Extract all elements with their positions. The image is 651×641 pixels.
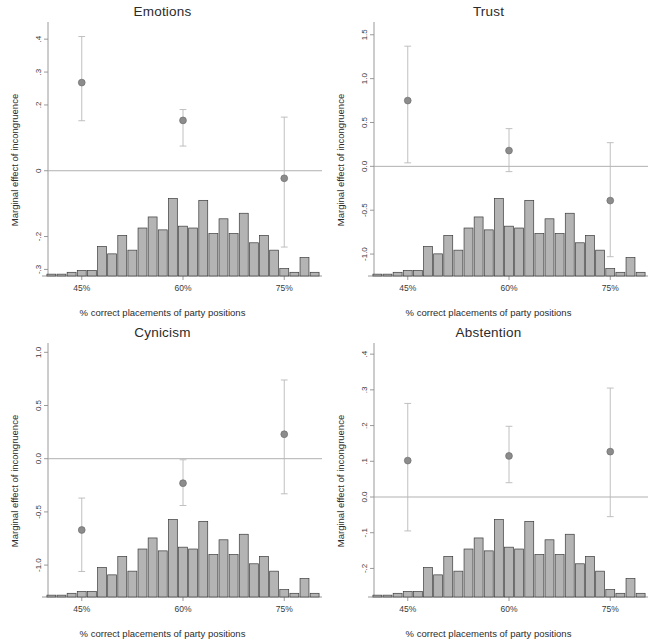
x-axis-title-cynicism: % correct placements of party positions [0, 628, 325, 639]
panel-abstention: Abstention Marginal effect of incongruen… [326, 321, 651, 641]
svg-text:.4: .4 [360, 350, 369, 357]
svg-text:60%: 60% [174, 283, 191, 293]
svg-text:75%: 75% [276, 604, 293, 614]
svg-text:.2: .2 [34, 101, 43, 108]
plot-area-cynicism: 1.00.50.0-0.5-1.045%60%75% [0, 321, 325, 641]
svg-text:60%: 60% [500, 283, 517, 293]
svg-text:-0.5: -0.5 [360, 203, 369, 217]
svg-text:75%: 75% [602, 283, 619, 293]
svg-text:.4: .4 [34, 35, 43, 42]
svg-text:45%: 45% [73, 283, 90, 293]
svg-text:45%: 45% [399, 604, 416, 614]
panel-cynicism: Cynicism Marginal effect of incongruence… [0, 321, 325, 641]
x-axis-title-trust: % correct placements of party positions [326, 307, 651, 318]
svg-text:0.0: 0.0 [34, 453, 43, 465]
svg-text:-.2: -.2 [34, 231, 43, 241]
panel-trust: Trust Marginal effect of incongruence 1.… [326, 0, 651, 320]
plot-area-emotions: .4.3.20-.2-.345%60%75% [0, 0, 325, 320]
svg-text:-1.0: -1.0 [360, 247, 369, 261]
svg-text:45%: 45% [73, 604, 90, 614]
svg-text:1.0: 1.0 [360, 73, 369, 85]
svg-text:.2: .2 [360, 422, 369, 429]
svg-text:.3: .3 [34, 68, 43, 75]
svg-text:0.0: 0.0 [360, 160, 369, 172]
svg-text:-.1: -.1 [360, 527, 369, 537]
svg-text:0: 0 [34, 168, 43, 173]
plot-area-trust: 1.51.00.50.0-0.5-1.045%60%75% [326, 0, 651, 320]
svg-text:75%: 75% [276, 283, 293, 293]
svg-text:60%: 60% [500, 604, 517, 614]
svg-text:45%: 45% [399, 283, 416, 293]
svg-text:.3: .3 [360, 386, 369, 393]
x-axis-title-emotions: % correct placements of party positions [0, 307, 325, 318]
svg-text:0.0: 0.0 [360, 491, 369, 503]
svg-text:-.2: -.2 [360, 563, 369, 573]
svg-text:-0.5: -0.5 [34, 504, 43, 518]
figure-panel-grid: Emotions Marginal effect of incongruence… [0, 0, 651, 641]
svg-text:.1: .1 [360, 457, 369, 464]
x-axis-title-abstention: % correct placements of party positions [326, 628, 651, 639]
svg-text:1.0: 1.0 [34, 346, 43, 358]
svg-text:75%: 75% [602, 604, 619, 614]
svg-text:-.3: -.3 [34, 264, 43, 274]
svg-text:60%: 60% [174, 604, 191, 614]
svg-text:1.5: 1.5 [360, 29, 369, 41]
svg-text:-1.0: -1.0 [34, 558, 43, 572]
svg-text:0.5: 0.5 [34, 399, 43, 411]
svg-text:0.5: 0.5 [360, 116, 369, 128]
panel-emotions: Emotions Marginal effect of incongruence… [0, 0, 325, 320]
plot-area-abstention: .4.3.2.10.0-.1-.245%60%75% [326, 321, 651, 641]
